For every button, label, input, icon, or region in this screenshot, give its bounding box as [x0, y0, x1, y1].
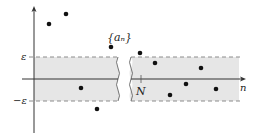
sequence-point — [138, 51, 143, 56]
epsilon-label: ε — [21, 51, 26, 62]
sequence-point — [214, 87, 219, 92]
sequence-point — [47, 22, 52, 27]
sequence-point — [184, 82, 189, 87]
sequence-point — [168, 93, 173, 98]
neg-epsilon-label: −ε — [13, 95, 27, 106]
sequence-point — [109, 45, 114, 50]
x-axis-label: n — [240, 82, 246, 93]
sequence-label: {aₙ} — [107, 31, 132, 44]
sequence-point — [79, 86, 84, 91]
sequence-point — [153, 61, 158, 66]
sequence-point — [95, 107, 100, 112]
epsilon-band-convergence-diagram: {aₙ} ε −ε N n — [0, 0, 256, 139]
sequence-point — [64, 12, 69, 17]
sequence-point — [199, 66, 204, 71]
n-index-label: N — [135, 85, 146, 98]
